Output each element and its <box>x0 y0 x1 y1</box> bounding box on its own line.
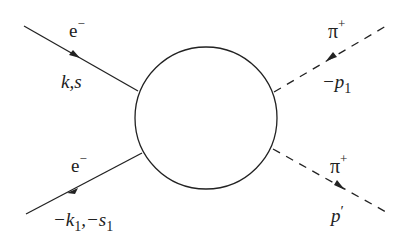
outgoing-electron-momentum-label: −k1,−s1 <box>53 209 113 234</box>
outgoing-electron-particle-label: e− <box>71 151 87 176</box>
incoming-electron-particle-label: e− <box>69 16 85 41</box>
pion-bottom-arrow-icon <box>334 180 345 190</box>
incoming-electron-momentum-label: k,s <box>61 71 82 92</box>
pion-top-particle-label: π+ <box>328 16 345 42</box>
pion-top-momentum-label: −p1 <box>322 71 351 96</box>
incoming-electron-arrow-icon <box>69 50 80 58</box>
pion-top-arrow-icon <box>326 52 337 61</box>
pion-bottom-momentum-label: p′ <box>329 203 344 226</box>
pion-bottom-particle-label: π+ <box>330 151 347 177</box>
interaction-blob <box>135 47 277 189</box>
feynman-diagram: e− k,s e− −k1,−s1 π+ −p1 π+ p′ <box>0 0 404 236</box>
